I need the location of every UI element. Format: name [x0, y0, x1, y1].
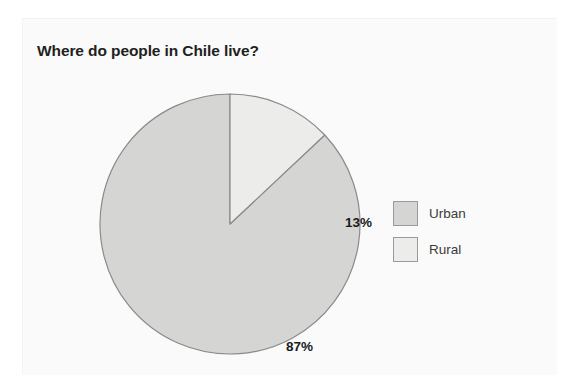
pie-slice-label-rural: 13% — [345, 215, 372, 230]
pie-chart-svg — [92, 86, 368, 362]
legend-label-rural: Rural — [429, 242, 461, 257]
pie-slice-label-urban: 87% — [286, 339, 313, 354]
legend-swatch-urban — [393, 201, 418, 226]
legend-swatch-rural — [393, 237, 418, 262]
pie-chart: 13% 87% — [92, 86, 368, 362]
legend-label-urban: Urban — [429, 206, 466, 221]
legend-item-urban[interactable]: Urban — [393, 195, 523, 231]
legend-item-rural[interactable]: Rural — [393, 231, 523, 267]
chart-canvas: Where do people in Chile live? 13% 87% U… — [0, 0, 585, 382]
page-title: Where do people in Chile live? — [37, 42, 259, 60]
chart-legend: Urban Rural — [393, 195, 523, 267]
